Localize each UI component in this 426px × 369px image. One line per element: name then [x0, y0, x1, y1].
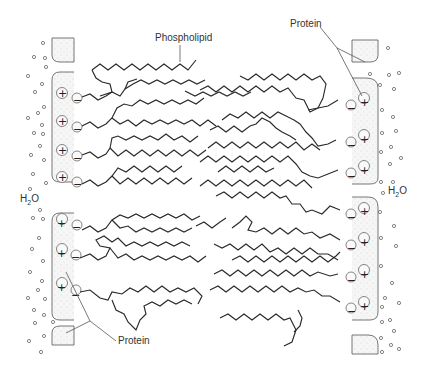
svg-text:−: −	[71, 251, 80, 264]
svg-text:−: −	[347, 102, 356, 115]
hydrocarbon-chains	[80, 60, 340, 346]
svg-text:+: +	[58, 87, 67, 100]
svg-text:−: −	[347, 170, 356, 183]
svg-text:+: +	[360, 268, 369, 281]
svg-text:−: −	[73, 152, 82, 165]
svg-text:−: −	[73, 178, 82, 191]
svg-text:+: +	[360, 300, 369, 313]
protein-label-top: Protein	[290, 18, 322, 29]
water-label-left: H2O	[20, 193, 39, 206]
svg-text:−: −	[347, 274, 356, 287]
phospholipid-label: Phospholipid	[155, 32, 212, 43]
membrane-diagram: +− +− +− +− +− +− +− −+ −+ −+ −+ −+ −+ −…	[0, 0, 426, 369]
water-label-right: H2O	[388, 185, 407, 198]
svg-text:−: −	[347, 139, 356, 152]
svg-text:+: +	[58, 144, 67, 157]
svg-text:+: +	[360, 133, 369, 146]
svg-text:−: −	[347, 211, 356, 224]
svg-text:+: +	[57, 217, 66, 230]
svg-text:−: −	[73, 123, 82, 136]
svg-text:+: +	[360, 96, 369, 109]
svg-text:+: +	[58, 171, 67, 184]
svg-text:+: +	[360, 236, 369, 249]
protein-label-bottom: Protein	[118, 335, 150, 346]
membrane-illustration: +− +− +− +− +− +− +− −+ −+ −+ −+ −+ −+ −…	[0, 0, 426, 369]
svg-text:+: +	[360, 205, 369, 218]
svg-text:+: +	[57, 247, 66, 260]
svg-text:+: +	[58, 115, 67, 128]
svg-text:−: −	[347, 305, 356, 318]
svg-text:+: +	[57, 281, 66, 294]
svg-text:−: −	[72, 221, 81, 234]
svg-text:−: −	[347, 242, 356, 255]
svg-text:+: +	[360, 164, 369, 177]
svg-text:−: −	[73, 94, 82, 107]
